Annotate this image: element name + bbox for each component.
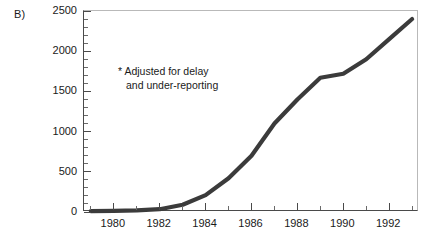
data-curve (84, 11, 419, 212)
x-axis-tick-minor (366, 206, 367, 210)
y-axis-tick-minor (84, 75, 88, 76)
y-axis-tick-minor (84, 67, 88, 68)
x-axis-tick-major (297, 203, 298, 210)
y-axis-tick-minor (84, 179, 88, 180)
y-axis-tick-minor (84, 163, 88, 164)
plot-area (83, 10, 418, 211)
x-axis-tick-label: 1986 (238, 217, 262, 229)
x-axis-tick-minor (228, 206, 229, 210)
x-axis-tick-label: 1984 (192, 217, 216, 229)
y-axis-tick-minor (84, 203, 88, 204)
y-axis-tick-minor (84, 99, 88, 100)
y-axis-tick-minor (84, 19, 88, 20)
chart-annotation: * Adjusted for delay and under-reporting (118, 64, 218, 92)
y-axis-tick-major (84, 131, 91, 132)
x-axis-tick-minor (182, 206, 183, 210)
y-axis-tick-minor (84, 59, 88, 60)
y-axis-tick-major (84, 11, 91, 12)
x-axis-tick-major (251, 203, 252, 210)
y-axis-tick-major (84, 212, 91, 213)
y-axis-tick-minor (84, 155, 88, 156)
y-axis-tick-minor (84, 187, 88, 188)
y-axis-tick-label: 500 (37, 165, 77, 177)
x-axis-tick-major (159, 203, 160, 210)
y-axis-tick-label: 2000 (37, 44, 77, 56)
y-axis-tick-minor (84, 35, 88, 36)
x-axis-tick-major (389, 203, 390, 210)
y-axis-tick-label: 2500 (37, 4, 77, 16)
chart-figure: B) 05001000150020002500 1980198219841986… (0, 0, 432, 245)
x-axis-tick-major (343, 203, 344, 210)
y-axis-tick-major (84, 51, 91, 52)
x-axis-tick-minor (320, 206, 321, 210)
y-axis-tick-minor (84, 83, 88, 84)
y-axis-tick-major (84, 171, 91, 172)
annotation-line-1: * Adjusted for delay (118, 65, 208, 77)
y-axis-tick-minor (84, 107, 88, 108)
x-axis-tick-minor (412, 206, 413, 210)
y-axis-tick-minor (84, 139, 88, 140)
y-axis-tick-label: 1000 (37, 125, 77, 137)
x-axis-tick-label: 1980 (101, 217, 125, 229)
x-axis-tick-label: 1988 (284, 217, 308, 229)
y-axis-tick-label: 0 (37, 205, 77, 217)
x-axis-tick-minor (274, 206, 275, 210)
y-axis-tick-minor (84, 115, 88, 116)
x-axis-tick-label: 1992 (376, 217, 400, 229)
y-axis-tick-minor (84, 43, 88, 44)
x-axis-tick-label: 1982 (146, 217, 170, 229)
y-axis-tick-minor (84, 27, 88, 28)
y-axis-tick-minor (84, 123, 88, 124)
y-axis-tick-minor (84, 195, 88, 196)
x-axis-tick-major (205, 203, 206, 210)
y-axis-tick-major (84, 91, 91, 92)
x-axis-tick-major (113, 203, 114, 210)
x-axis-tick-minor (136, 206, 137, 210)
y-axis-tick-label: 1500 (37, 84, 77, 96)
x-axis-tick-minor (90, 206, 91, 210)
panel-label: B) (14, 8, 25, 20)
annotation-line-2: and under-reporting (126, 79, 218, 91)
y-axis-tick-minor (84, 147, 88, 148)
x-axis-tick-label: 1990 (330, 217, 354, 229)
